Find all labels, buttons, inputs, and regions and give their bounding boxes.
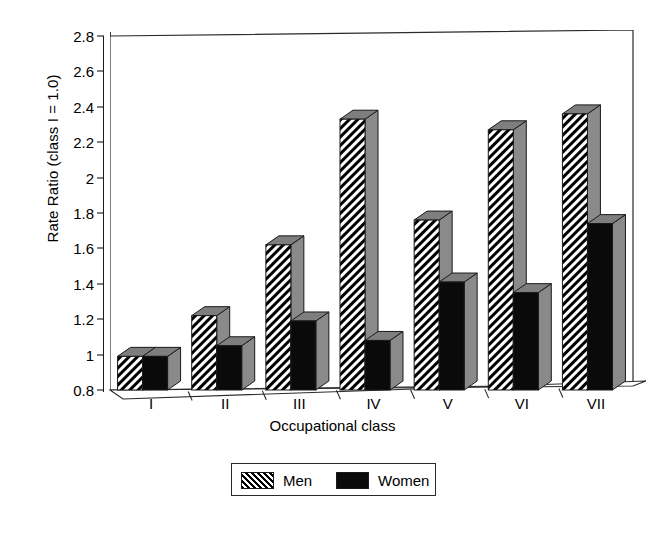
x-axis-title: Occupational class	[0, 417, 665, 434]
legend-entry-men: Men	[241, 464, 312, 497]
bar-VII-women	[587, 215, 625, 390]
x-axis-tick-label: V	[443, 396, 453, 411]
legend-swatch-men-icon	[241, 472, 274, 489]
chart-legend: Men Women	[231, 463, 436, 496]
legend-label-women: Women	[378, 472, 429, 489]
x-axis-tick-label: IV	[366, 396, 380, 411]
legend-label-men: Men	[283, 472, 312, 489]
bar-chart-figure: Rate Ratio (class I = 1.0) 0.811.21.41.6…	[0, 0, 665, 537]
x-axis-tick-label: II	[221, 396, 229, 411]
bar-II-women	[217, 337, 255, 390]
x-axis-tick-label: I	[149, 396, 153, 411]
x-axis-tick-label: III	[293, 396, 306, 411]
bar-I-women	[143, 347, 181, 390]
x-axis-tick-label: VII	[587, 396, 605, 411]
bar-IV-women	[365, 331, 403, 390]
bar-III-women	[291, 312, 329, 390]
bar-V-women	[439, 273, 477, 390]
legend-entry-women: Women	[336, 464, 429, 497]
x-axis-tick-label: VI	[515, 396, 529, 411]
bar-VI-women	[513, 284, 551, 390]
legend-swatch-women-icon	[336, 472, 369, 489]
bars-layer	[0, 0, 665, 537]
